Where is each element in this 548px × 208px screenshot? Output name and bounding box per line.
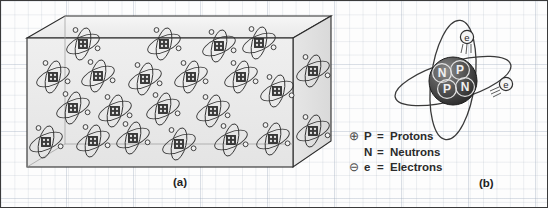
legend-name: Protons [390, 129, 433, 145]
nucleon-label: P [456, 63, 464, 77]
electron-label: e [503, 79, 508, 90]
legend: ⊕ P = Protons N = Neutrons ⊖ e = Electro… [349, 129, 499, 176]
legend-equals: = [377, 145, 390, 161]
electron-upper: e [460, 30, 473, 54]
circle-plus-icon: ⊕ [349, 129, 364, 145]
legend-symbol: e [364, 160, 377, 176]
nucleon-label: N [461, 80, 470, 94]
panel-b-atom: N P P N e e [390, 18, 516, 142]
legend-item-protons: ⊕ P = Protons [349, 129, 499, 145]
figure-vector-layer: N P P N e e [1, 1, 548, 208]
legend-item-electrons: ⊖ e = Electrons [349, 160, 499, 176]
legend-equals: = [377, 160, 390, 176]
electron-right: e [490, 77, 513, 97]
legend-symbol: N [364, 145, 377, 161]
motion-streak [466, 44, 467, 54]
motion-streak [493, 93, 501, 97]
box-side-face [293, 16, 331, 167]
circle-minus-icon: ⊖ [349, 160, 364, 176]
motion-streak [490, 87, 499, 91]
legend-name: Neutrons [390, 145, 440, 161]
motion-streak [461, 44, 463, 53]
electron-label: e [464, 32, 469, 43]
figure-canvas: N P P N e e [0, 0, 548, 208]
legend-item-neutrons: N = Neutrons [349, 145, 499, 161]
motion-streak [491, 90, 500, 94]
legend-symbol: P [364, 129, 377, 145]
box-top-face [27, 16, 331, 38]
panel-label-a: (a) [173, 176, 187, 188]
panel-label-b: (b) [479, 177, 494, 189]
legend-equals: = [377, 129, 390, 145]
nucleon-label: N [438, 66, 447, 80]
nucleon-label: P [443, 82, 451, 96]
legend-name: Electrons [390, 160, 442, 176]
